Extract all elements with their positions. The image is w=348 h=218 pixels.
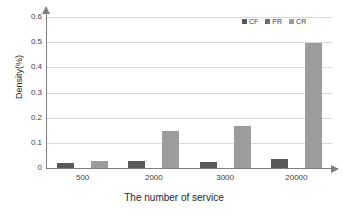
bar-group — [47, 17, 118, 168]
bar-chart: 00.10.20.30.40.50.6 Density(%) 500200030… — [0, 0, 348, 218]
x-axis-line — [46, 168, 333, 169]
bar-cf — [200, 162, 217, 168]
x-axis-tick-label: 20000 — [261, 172, 332, 186]
x-axis-tick-label: 500 — [47, 172, 118, 186]
x-axis-arrow-icon — [331, 165, 339, 173]
legend-swatch-icon — [289, 19, 294, 24]
y-axis-tick-label: 0 — [2, 164, 42, 172]
y-axis-title: Density(%) — [14, 27, 24, 127]
legend-label: PR — [272, 18, 282, 25]
y-axis-tick-label: 0.1 — [2, 139, 42, 147]
y-axis-tick-label: 0.6 — [2, 13, 42, 21]
bar-cf — [57, 163, 74, 168]
legend-item-cf[interactable]: CF — [242, 18, 258, 25]
bar-cr — [305, 43, 322, 168]
bar-cr — [234, 126, 251, 168]
legend-item-pr[interactable]: PR — [265, 18, 282, 25]
bar-group — [261, 17, 332, 168]
legend-swatch-icon — [265, 19, 270, 24]
legend-swatch-icon — [242, 19, 247, 24]
x-axis-tick-label: 3000 — [190, 172, 261, 186]
chart-legend: CFPRCR — [242, 18, 306, 25]
legend-label: CF — [249, 18, 258, 25]
bar-cf — [128, 161, 145, 168]
bar-group — [190, 17, 261, 168]
x-axis-title: The number of service — [0, 192, 348, 203]
bar-cr — [91, 161, 108, 168]
x-axis-tick-labels: 5002000300020000 — [47, 172, 332, 186]
y-axis-arrow-icon — [42, 6, 50, 14]
legend-label: CR — [296, 18, 306, 25]
bar-cf — [271, 159, 288, 168]
bar-cr — [162, 131, 179, 168]
bar-group — [118, 17, 189, 168]
x-axis-tick-label: 2000 — [118, 172, 189, 186]
legend-item-cr[interactable]: CR — [289, 18, 306, 25]
bars-layer — [47, 17, 332, 168]
